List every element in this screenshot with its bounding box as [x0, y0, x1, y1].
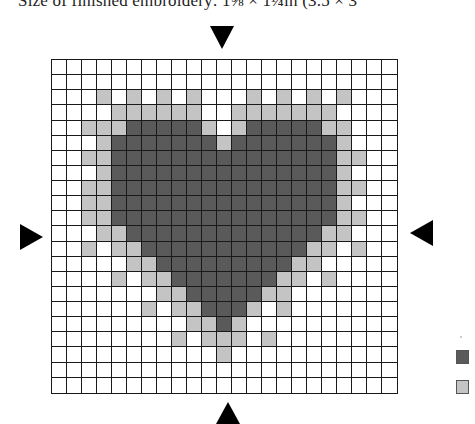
grid-cell [82, 287, 97, 302]
grid-cell [202, 105, 217, 120]
grid-cell [322, 105, 337, 120]
grid-cell [367, 151, 382, 166]
grid-cell [277, 272, 292, 287]
grid-cell [232, 226, 247, 241]
grid-cell [112, 181, 127, 196]
grid-cell [352, 121, 367, 136]
grid-cell [172, 272, 187, 287]
grid-cell [187, 121, 202, 136]
grid-cell [157, 211, 172, 226]
grid-cell [187, 60, 202, 75]
grid-cell [82, 136, 97, 151]
grid-cell [187, 211, 202, 226]
grid-cell [202, 166, 217, 181]
grid-cell [157, 75, 172, 90]
grid-cell [97, 75, 112, 90]
grid-cell [292, 257, 307, 272]
grid-cell [232, 287, 247, 302]
grid-cell [52, 211, 67, 226]
grid-cell [367, 242, 382, 257]
grid-cell [322, 363, 337, 378]
grid-cell [232, 347, 247, 362]
grid-cell [367, 378, 382, 393]
grid-cell [112, 196, 127, 211]
grid-cell [382, 242, 397, 257]
grid-cell [112, 317, 127, 332]
grid-cell [337, 151, 352, 166]
grid-cell [277, 121, 292, 136]
grid-cell [307, 242, 322, 257]
grid-cell [382, 332, 397, 347]
grid-cell [97, 378, 112, 393]
grid-cell [127, 211, 142, 226]
grid-cell [232, 136, 247, 151]
grid-cell [217, 60, 232, 75]
grid-cell [202, 363, 217, 378]
grid-cell [202, 332, 217, 347]
grid-cell [232, 272, 247, 287]
grid-cell [307, 378, 322, 393]
grid-cell [172, 90, 187, 105]
grid-cell [352, 257, 367, 272]
grid-cell [307, 332, 322, 347]
grid-cell [172, 257, 187, 272]
grid-cell [67, 242, 82, 257]
grid-cell [172, 181, 187, 196]
grid-cell [322, 60, 337, 75]
grid-cell [142, 90, 157, 105]
grid-cell [82, 90, 97, 105]
grid-cell [172, 363, 187, 378]
center-marker-right-icon [410, 220, 433, 246]
grid-cell [292, 363, 307, 378]
grid-cell [247, 196, 262, 211]
grid-cell [172, 287, 187, 302]
grid-cell [262, 166, 277, 181]
grid-cell [352, 105, 367, 120]
grid-cell [202, 257, 217, 272]
grid-cell [202, 90, 217, 105]
grid-cell [172, 151, 187, 166]
grid-cell [367, 317, 382, 332]
grid-cell [127, 151, 142, 166]
grid-cell [52, 181, 67, 196]
grid-cell [247, 347, 262, 362]
grid-cell [307, 196, 322, 211]
grid-cell [67, 257, 82, 272]
grid-cell [277, 347, 292, 362]
grid-cell [127, 121, 142, 136]
grid-cell [172, 226, 187, 241]
grid-cell [262, 287, 277, 302]
grid-cell [157, 378, 172, 393]
grid-cell [262, 226, 277, 241]
grid-cell [292, 287, 307, 302]
grid-cell [337, 363, 352, 378]
grid-cell [157, 347, 172, 362]
grid-cell [217, 287, 232, 302]
grid-cell [52, 332, 67, 347]
grid-cell [262, 211, 277, 226]
grid-cell [82, 363, 97, 378]
grid-cell [142, 317, 157, 332]
grid-cell [307, 211, 322, 226]
grid-cell [97, 136, 112, 151]
grid-cell [247, 257, 262, 272]
grid-cell [382, 60, 397, 75]
grid-cell [352, 166, 367, 181]
grid-cell [112, 347, 127, 362]
grid-cell [172, 75, 187, 90]
grid-cell [187, 287, 202, 302]
grid-cell [307, 226, 322, 241]
grid-cell [307, 257, 322, 272]
grid-cell [112, 287, 127, 302]
grid-cell [217, 272, 232, 287]
grid-cell [187, 196, 202, 211]
grid-cell [127, 166, 142, 181]
grid-cell [202, 272, 217, 287]
grid-cell [172, 211, 187, 226]
grid-cell [322, 257, 337, 272]
grid-cell [142, 272, 157, 287]
grid-cell [157, 302, 172, 317]
grid-cell [217, 151, 232, 166]
grid-cell [217, 211, 232, 226]
grid-cell [367, 166, 382, 181]
